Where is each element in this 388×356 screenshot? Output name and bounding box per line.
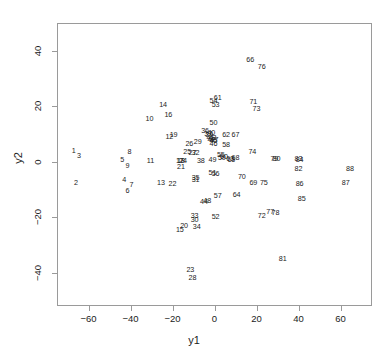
data-point-label: 7 (130, 182, 134, 189)
x-tick-label: 60 (335, 314, 346, 324)
data-point-label: 61 (214, 94, 222, 101)
data-point-label: 16 (164, 111, 172, 118)
data-point-label: 24 (179, 158, 187, 165)
data-point-label: 70 (238, 173, 246, 180)
data-point-label: 9 (125, 162, 129, 169)
scatter-plot-figure: 1234567891011121314151617181920212223242… (0, 0, 388, 356)
data-point-label: 33 (191, 212, 199, 219)
data-point-label: 5 (120, 157, 124, 164)
y-tick-mark (52, 217, 57, 218)
data-point-label: 48 (203, 197, 211, 204)
y-tick-label: −20 (33, 206, 43, 228)
data-point-label: 14 (159, 101, 167, 108)
data-point-label: 62 (222, 132, 230, 139)
x-tick-mark (341, 306, 342, 311)
data-point-label: 20 (180, 222, 188, 229)
y-tick-mark (52, 162, 57, 163)
data-point-label: 23 (186, 266, 194, 273)
data-point-label: 3 (77, 152, 81, 159)
x-tick-mark (173, 306, 174, 311)
data-point-label: 69 (249, 179, 257, 186)
data-point-label: 56 (212, 171, 220, 178)
x-tick-label: 40 (293, 314, 304, 324)
data-point-label: 74 (248, 148, 256, 155)
data-point-label: 38 (197, 157, 205, 164)
x-tick-label: 20 (251, 314, 262, 324)
x-tick-mark (131, 306, 132, 311)
data-point-label: 28 (189, 275, 197, 282)
data-point-label: 19 (170, 132, 178, 139)
y-tick-mark (52, 51, 57, 52)
data-point-label: 10 (145, 115, 153, 122)
data-point-label: 85 (298, 196, 306, 203)
data-point-label: 8 (127, 148, 131, 155)
data-point-label: 1 (72, 147, 76, 154)
x-tick-mark (299, 306, 300, 311)
y-tick-label: 40 (33, 40, 43, 62)
data-point-label: 4 (122, 176, 126, 183)
data-point-label: 82 (295, 165, 303, 172)
y-tick-mark (52, 273, 57, 274)
data-point-label: 81 (279, 255, 287, 262)
x-tick-mark (215, 306, 216, 311)
data-point-label: 84 (296, 157, 304, 164)
y-tick-mark (52, 106, 57, 107)
data-point-label: 75 (260, 179, 268, 186)
data-point-label: 80 (273, 155, 281, 162)
y-tick-label: −40 (33, 262, 43, 284)
data-point-label: 72 (258, 212, 266, 219)
data-point-label: 76 (258, 64, 266, 71)
data-point-label: 66 (246, 57, 254, 64)
data-point-label: 49 (208, 156, 216, 163)
x-tick-label: −60 (80, 314, 96, 324)
x-tick-label: −40 (122, 314, 138, 324)
data-point-label: 13 (157, 179, 165, 186)
data-point-label: 87 (342, 179, 350, 186)
data-point-label: 2 (74, 179, 78, 186)
data-point-label: 73 (253, 105, 261, 112)
x-axis-title: y1 (0, 334, 388, 346)
data-point-label: 52 (212, 214, 220, 221)
data-point-label: 68 (232, 154, 240, 161)
data-point-label: 67 (232, 132, 240, 139)
data-point-label: 22 (169, 180, 177, 187)
y-tick-label: 0 (33, 151, 43, 173)
data-point-label: 86 (296, 180, 304, 187)
data-point-label: 50 (210, 119, 218, 126)
data-point-label: 58 (222, 141, 230, 148)
data-point-label: 29 (194, 139, 202, 146)
y-tick-label: 20 (33, 95, 43, 117)
x-tick-label: −20 (164, 314, 180, 324)
y-axis-title: y2 (12, 148, 24, 168)
x-tick-mark (89, 306, 90, 311)
data-point-label: 78 (271, 209, 279, 216)
data-point-label: 34 (193, 223, 201, 230)
data-point-label: 88 (346, 165, 354, 172)
data-point-label: 26 (185, 140, 193, 147)
x-tick-mark (257, 306, 258, 311)
data-point-label: 11 (147, 158, 154, 165)
data-point-label: 35 (192, 175, 200, 182)
data-point-label: 57 (214, 193, 222, 200)
data-points-layer: 1234567891011121314151617181920212223242… (57, 23, 372, 306)
data-point-label: 64 (233, 191, 241, 198)
x-tick-label: 0 (212, 314, 217, 324)
data-point-label: 47 (211, 136, 219, 143)
